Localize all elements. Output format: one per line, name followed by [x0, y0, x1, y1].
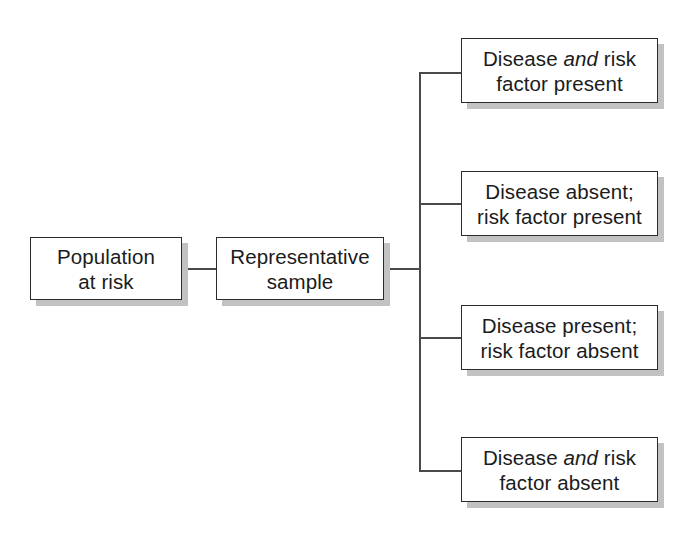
- outcome-1-line1-before: Disease: [483, 47, 564, 70]
- node-outcome-3-label: Disease present;risk factor absent: [475, 313, 645, 363]
- outcome-4-line1-after: risk: [598, 446, 636, 469]
- connector-branch-to-outcome-2: [419, 203, 461, 205]
- outcome-1-line2: factor present: [496, 72, 623, 95]
- outcome-4-line1-italic: and: [563, 446, 598, 469]
- outcome-3-line1: Disease present;: [482, 314, 637, 337]
- node-outcome-disease-and-risk-factor-present: Disease and riskfactor present: [461, 38, 658, 103]
- outcome-2-line1: Disease absent;: [485, 180, 634, 203]
- connector-branch-to-outcome-4: [419, 470, 461, 472]
- node-outcome-1-label: Disease and riskfactor present: [477, 46, 642, 96]
- node-representative-sample: Representative sample: [216, 237, 384, 300]
- node-population-at-risk: Population at risk: [30, 237, 182, 300]
- node-outcome-disease-and-risk-factor-absent: Disease and riskfactor absent: [461, 437, 658, 502]
- outcome-2-line2: risk factor present: [477, 205, 642, 228]
- outcome-4-line1-before: Disease: [483, 446, 564, 469]
- node-population-at-risk-label: Population at risk: [51, 244, 161, 294]
- connector-population-to-sample: [182, 268, 216, 270]
- node-outcome-disease-present-risk-factor-absent: Disease present;risk factor absent: [461, 305, 658, 370]
- node-outcome-2-label: Disease absent;risk factor present: [471, 179, 648, 229]
- outcome-1-line1-after: risk: [598, 47, 636, 70]
- connector-sample-to-branch-trunk: [384, 268, 420, 270]
- outcome-3-line2: risk factor absent: [481, 339, 639, 362]
- outcome-1-line1-italic: and: [563, 47, 598, 70]
- outcome-4-line2: factor absent: [500, 471, 620, 494]
- connector-branch-to-outcome-3: [419, 337, 461, 339]
- flowchart-diagram: Population at risk Representative sample…: [0, 0, 698, 548]
- node-representative-sample-label: Representative sample: [224, 244, 375, 294]
- connector-branch-to-outcome-1: [419, 72, 461, 74]
- branch-trunk-line: [419, 72, 421, 471]
- node-outcome-4-label: Disease and riskfactor absent: [477, 445, 642, 495]
- node-outcome-disease-absent-risk-factor-present: Disease absent;risk factor present: [461, 171, 658, 236]
